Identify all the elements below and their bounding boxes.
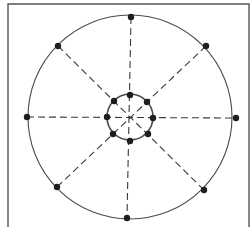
node-inner-top-left bbox=[111, 98, 117, 104]
node-outer-top-right bbox=[203, 43, 209, 49]
node-inner-left bbox=[104, 114, 110, 120]
node-outer-bottom-right bbox=[201, 187, 207, 193]
node-inner-top bbox=[127, 92, 133, 98]
diagram-background bbox=[0, 0, 251, 227]
node-outer-left bbox=[24, 114, 30, 120]
node-outer-bottom bbox=[124, 215, 130, 221]
node-outer-top-left bbox=[55, 43, 61, 49]
node-inner-bottom-right bbox=[145, 131, 151, 137]
network-diagram bbox=[0, 0, 251, 227]
node-inner-bottom-left bbox=[110, 131, 116, 137]
node-inner-right bbox=[150, 115, 156, 121]
node-inner-top-right bbox=[144, 99, 150, 105]
node-outer-bottom-left bbox=[54, 184, 60, 190]
node-outer-top bbox=[128, 14, 134, 20]
node-inner-bottom bbox=[127, 138, 133, 144]
node-outer-right bbox=[233, 115, 239, 121]
